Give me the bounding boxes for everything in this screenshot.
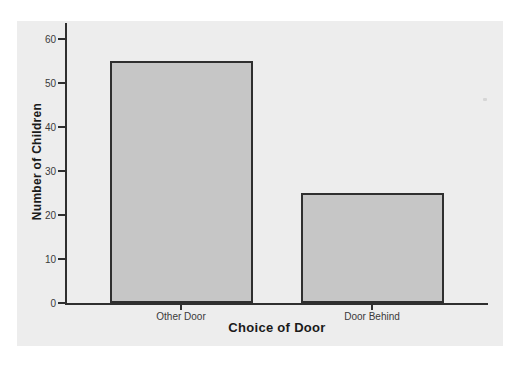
x-tick-mark bbox=[180, 305, 182, 310]
y-tick-mark bbox=[58, 126, 65, 128]
x-tick-mark bbox=[371, 305, 373, 310]
chart-image: 0102030405060 Other DoorDoor Behind Numb… bbox=[0, 0, 529, 365]
y-tick-label: 10 bbox=[17, 254, 56, 265]
y-axis-title: Number of Children bbox=[30, 75, 45, 249]
y-tick-mark bbox=[58, 38, 65, 40]
y-tick-label: 0 bbox=[17, 298, 56, 309]
y-tick-mark bbox=[58, 214, 65, 216]
scan-artifact bbox=[483, 98, 487, 101]
x-axis-title: Choice of Door bbox=[177, 320, 377, 335]
y-tick-label: 60 bbox=[17, 34, 56, 45]
y-tick-mark bbox=[58, 258, 65, 260]
y-tick-mark bbox=[58, 82, 65, 84]
y-tick-mark bbox=[58, 170, 65, 172]
chart-panel: 0102030405060 Other DoorDoor Behind Numb… bbox=[17, 21, 503, 346]
y-axis-line bbox=[65, 23, 67, 305]
bar-door-behind bbox=[301, 193, 444, 303]
y-tick-mark bbox=[58, 302, 65, 304]
x-axis-line bbox=[65, 303, 488, 305]
bar-other-door bbox=[110, 61, 253, 303]
